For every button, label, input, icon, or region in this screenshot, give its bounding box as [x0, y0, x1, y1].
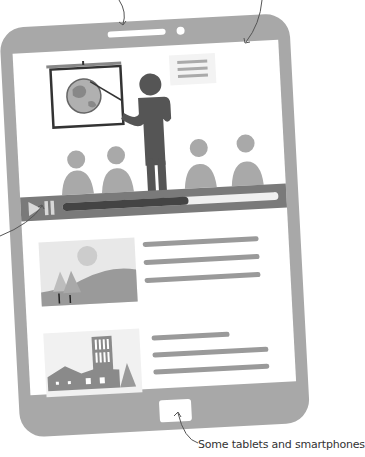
home-button[interactable] — [159, 399, 192, 423]
speech-box — [169, 53, 217, 85]
landscape-thumbnail — [38, 238, 137, 307]
caption-text: Some tablets and smartphones — [198, 438, 365, 451]
arrow-to-speaker — [119, 0, 124, 24]
projector-screen — [46, 59, 124, 128]
city-thumbnail — [43, 328, 142, 397]
